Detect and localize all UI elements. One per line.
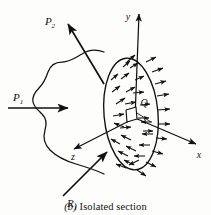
label-area-element-q: Q <box>140 97 148 108</box>
axis-y-line <box>135 14 139 118</box>
label-p1: P1 <box>12 91 23 106</box>
caption-tag: (b) <box>64 201 77 212</box>
body-outline <box>33 50 104 174</box>
reaction-r1-arrow <box>63 152 107 196</box>
label-p2: P2 <box>44 15 56 30</box>
figure-caption: (b) Isolated section <box>0 201 211 212</box>
coordinate-axes <box>74 14 196 149</box>
isolated-section-diagram: P2 P1 R1 y x z Q <box>0 0 211 215</box>
figure-container: P2 P1 R1 y x z Q (b) Isolated section <box>0 0 211 215</box>
label-axis-x: x <box>196 149 202 160</box>
caption-text: Isolated section <box>77 201 147 212</box>
label-axis-y: y <box>125 11 131 22</box>
force-p2-arrow <box>68 24 104 84</box>
label-axis-z: z <box>70 151 75 162</box>
figure-labels: P2 P1 R1 y x z Q <box>12 11 202 212</box>
